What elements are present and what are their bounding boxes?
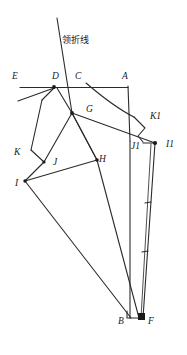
- line-G-I1: [72, 113, 155, 143]
- point-label-B: B: [118, 316, 124, 326]
- vertex-dot-J: [42, 160, 45, 163]
- line-H-G: [72, 113, 97, 160]
- line-J-G: [44, 113, 72, 162]
- vertex-dot-F: [138, 313, 145, 320]
- collar-fold-line-lower: [97, 160, 139, 318]
- guide-line-D-left: [18, 88, 54, 101]
- vertex-dot-G: [70, 111, 74, 115]
- point-label-K1: K1: [149, 111, 161, 121]
- line-inner-corner-K: [31, 100, 42, 150]
- line-I-B: [25, 181, 131, 318]
- point-label-A: A: [121, 71, 128, 81]
- point-label-F: F: [147, 316, 154, 326]
- collar-fold-line-label: 领折线: [62, 34, 89, 45]
- vertex-dot-D: [52, 85, 56, 89]
- point-label-I: I: [14, 178, 19, 188]
- collar-fold-line-upper: [57, 18, 72, 113]
- vertex-dot-I1: [153, 141, 157, 145]
- vertex-dot-I: [23, 179, 26, 182]
- point-label-J1: J1: [131, 141, 140, 151]
- line-I1-F-outer: [143, 143, 155, 318]
- tick-mark-upper: [145, 202, 151, 203]
- lapel-curve-C-K1: [86, 83, 134, 117]
- line-K-J: [31, 150, 44, 162]
- point-label-D: D: [51, 71, 59, 81]
- pattern-diagram-canvas: 领折线 E D C A G K1 J1 I1 K J H I B F: [0, 0, 187, 355]
- pattern-drawing: 领折线 E D C A G K1 J1 I1 K J H I B F: [0, 0, 187, 355]
- point-label-C: C: [75, 71, 82, 81]
- point-label-I1: I1: [165, 139, 174, 149]
- point-label-K: K: [13, 147, 21, 157]
- point-label-J: J: [53, 157, 58, 167]
- point-label-H: H: [98, 154, 107, 164]
- point-label-G: G: [86, 104, 93, 114]
- point-label-E: E: [11, 71, 18, 81]
